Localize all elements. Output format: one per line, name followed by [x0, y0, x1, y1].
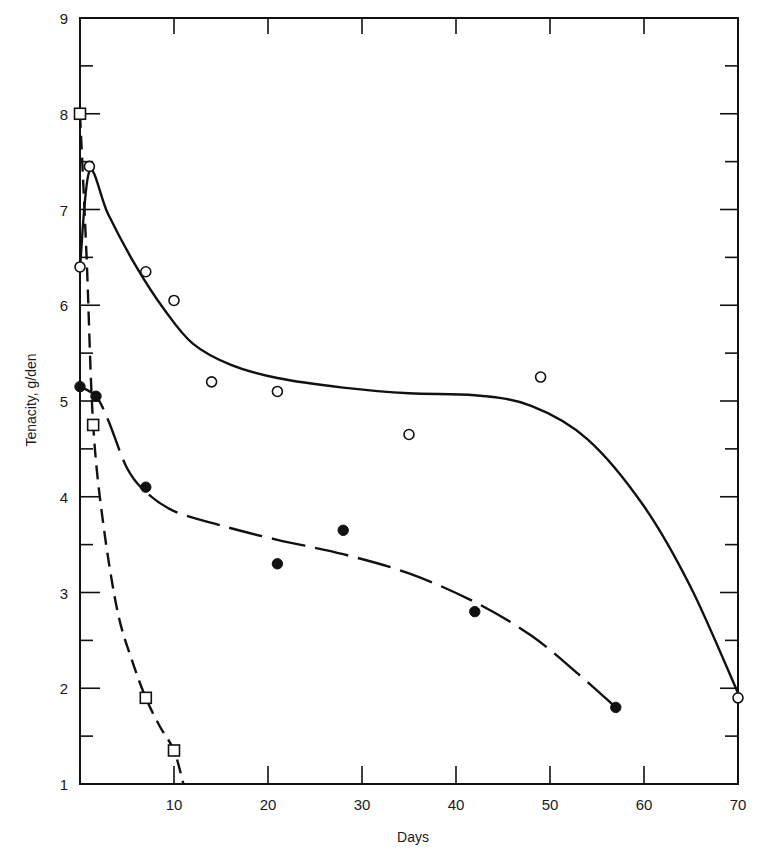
- plot-border: [80, 18, 738, 784]
- open-circle-marker: [84, 161, 94, 171]
- filled-circle-marker: [141, 482, 151, 492]
- y-tick-label: 9: [60, 10, 68, 27]
- open-circle-marker: [207, 377, 217, 387]
- x-tick-label: 30: [354, 796, 371, 813]
- open-square-marker: [75, 108, 86, 119]
- axis-ticks: [80, 18, 738, 784]
- filled-circle-marker: [272, 559, 282, 569]
- x-tick-label: 70: [730, 796, 747, 813]
- x-tick-label: 40: [448, 796, 465, 813]
- open-square-marker: [88, 419, 99, 430]
- filled-circle-marker: [75, 381, 85, 391]
- x-tick-label: 60: [636, 796, 653, 813]
- filled-circle-marker: [470, 606, 480, 616]
- x-tick-label: 50: [542, 796, 559, 813]
- y-tick-label: 4: [60, 489, 68, 506]
- data-markers: [75, 108, 744, 756]
- y-tick-label: 6: [60, 297, 68, 314]
- open-circle-marker: [536, 372, 546, 382]
- filled-circle-marker: [611, 702, 621, 712]
- filled-circle-marker: [91, 391, 101, 401]
- open-circle-marker: [169, 295, 179, 305]
- x-axis-title: Days: [397, 829, 429, 845]
- y-tick-label: 1: [60, 776, 68, 793]
- open-circle-marker: [75, 262, 85, 272]
- plot-frame: [80, 18, 738, 784]
- filled-circles-fit-line: [80, 387, 616, 708]
- y-axis-title: Tenacity, g/den: [23, 353, 39, 446]
- y-tick-label: 5: [60, 393, 68, 410]
- open-square-marker: [169, 745, 180, 756]
- fit-curves: [80, 114, 738, 784]
- filled-circle-marker: [338, 525, 348, 535]
- x-tick-label: 10: [166, 796, 183, 813]
- open-square-marker: [140, 692, 151, 703]
- y-tick-label: 7: [60, 202, 68, 219]
- y-tick-label: 3: [60, 585, 68, 602]
- y-tick-label: 8: [60, 106, 68, 123]
- open-circle-marker: [404, 430, 414, 440]
- tenacity-chart: 10203040506070123456789 Days Tenacity, g…: [0, 0, 761, 861]
- open-circle-marker: [272, 386, 282, 396]
- open-circle-marker: [141, 267, 151, 277]
- open-circle-marker: [733, 693, 743, 703]
- y-tick-label: 2: [60, 680, 68, 697]
- x-tick-label: 20: [260, 796, 277, 813]
- axis-tick-labels: 10203040506070123456789: [60, 10, 747, 813]
- open-squares-fit-line: [80, 114, 183, 784]
